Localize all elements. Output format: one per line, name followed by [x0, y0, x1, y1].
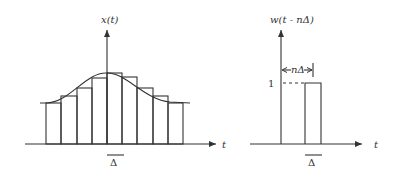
bar	[92, 78, 107, 144]
left-panel: x(t) t Δ	[25, 14, 227, 168]
diagram-canvas: x(t) t Δ w(t - nΔ) t 1 nΔ Δ	[0, 0, 396, 182]
right-delta-label: Δ	[308, 157, 315, 168]
bar	[46, 103, 61, 144]
bar	[107, 73, 122, 144]
bar	[153, 96, 168, 144]
unit-pulse	[305, 83, 321, 144]
left-delta-label: Δ	[110, 157, 117, 168]
right-y-label: w(t - nΔ)	[270, 14, 314, 25]
bar	[77, 88, 92, 144]
level-label: 1	[268, 78, 274, 89]
left-x-label: t	[222, 139, 227, 150]
staircase-bars	[46, 73, 183, 144]
bar	[61, 96, 77, 144]
right-x-label: t	[374, 139, 379, 150]
bar	[168, 103, 183, 144]
left-y-label: x(t)	[101, 14, 119, 25]
offset-label: nΔ	[291, 64, 305, 75]
bar	[122, 77, 137, 144]
right-panel: w(t - nΔ) t 1 nΔ Δ	[250, 14, 379, 168]
bar	[137, 88, 153, 144]
